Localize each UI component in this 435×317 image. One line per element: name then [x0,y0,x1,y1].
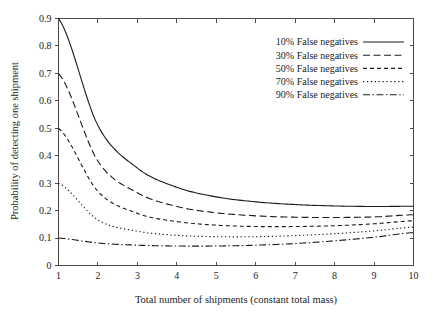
y-tick-label: 0.3 [39,178,52,189]
legend-label-2: 30% False negatives [276,50,358,61]
y-tick-label: 0.9 [39,13,52,24]
x-axis-title: Total number of shipments (constant tota… [135,294,338,306]
plot-frame [59,19,414,266]
x-tick-label: 1 [56,270,61,281]
x-tick-label: 2 [95,270,100,281]
x-tick-label: 3 [135,270,140,281]
legend-label-1: 10% False negatives [276,36,358,47]
chart-figure: 00.10.20.30.40.50.60.70.80.9 12345678910… [0,0,435,317]
y-tick-label: 0.8 [39,40,52,51]
curve-5 [59,233,414,247]
y-tick-label: 0.1 [39,232,52,243]
x-tick-label: 5 [214,270,219,281]
y-tick-label: 0.6 [39,95,52,106]
x-tick-label: 4 [174,270,179,281]
x-axis-ticks: 12345678910 [56,19,419,281]
curve-4 [59,183,414,237]
x-tick-label: 6 [253,270,258,281]
x-tick-label: 10 [409,270,419,281]
y-tick-label: 0.4 [39,150,52,161]
y-tick-label: 0.2 [39,205,52,216]
x-tick-label: 7 [293,270,298,281]
y-tick-label: 0.7 [39,68,52,79]
data-curves [59,19,414,247]
chart-canvas: 00.10.20.30.40.50.60.70.80.9 12345678910… [0,0,435,317]
chart-legend: 10% False negatives30% False negatives50… [276,36,404,100]
y-axis-title: Probability of detecting one shipment [9,62,20,220]
y-tick-label: 0.5 [39,123,52,134]
curve-1 [59,19,414,207]
x-tick-label: 8 [332,270,337,281]
x-tick-label: 9 [372,270,377,281]
legend-label-3: 50% False negatives [276,63,358,74]
legend-label-4: 70% False negatives [276,76,358,87]
y-tick-label: 0 [47,260,52,271]
legend-label-5: 90% False negatives [276,89,358,100]
